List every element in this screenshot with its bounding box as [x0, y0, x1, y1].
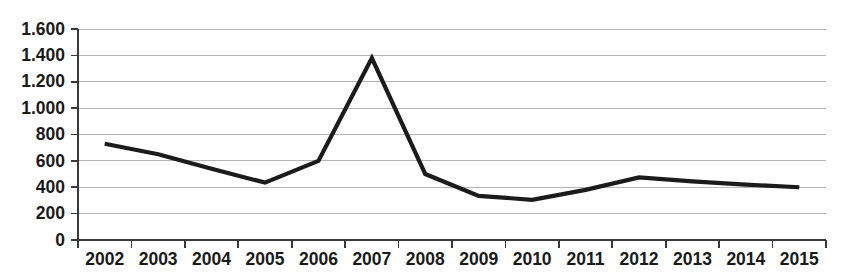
y-tick-labels-group: 02004006008001.0001.2001.4001.600	[21, 19, 65, 250]
x-axis-tick-label: 2010	[513, 249, 552, 269]
x-axis-tick-label: 2005	[246, 249, 285, 269]
y-axis-tick-label: 1.600	[21, 19, 65, 39]
x-axis-tick-label: 2011	[567, 249, 605, 269]
y-axis-tick-label: 800	[36, 124, 65, 144]
y-axis-tick-label: 1.000	[21, 98, 65, 118]
x-axis-tick-label: 2004	[192, 249, 231, 269]
y-axis-tick-label: 1.400	[21, 45, 65, 65]
y-axis-group	[71, 29, 78, 240]
x-axis-tick-label: 2003	[139, 249, 178, 269]
x-axis-tick-label: 2009	[459, 249, 498, 269]
data-series-group	[105, 58, 800, 200]
x-axis-group	[78, 240, 826, 248]
y-axis-tick-label: 200	[36, 203, 65, 223]
x-axis-tick-label: 2015	[780, 249, 819, 269]
y-axis-tick-label: 400	[36, 177, 65, 197]
x-axis-tick-label: 2006	[299, 249, 338, 269]
y-axis-tick-label: 1.200	[21, 71, 65, 91]
x-tick-labels-group: 2002200320042005200620072008200920102011…	[85, 249, 819, 269]
x-axis-tick-label: 2013	[673, 249, 712, 269]
x-axis-tick-label: 2008	[406, 249, 445, 269]
x-axis-tick-label: 2012	[620, 249, 659, 269]
x-axis-tick-label: 2002	[85, 249, 124, 269]
x-axis-tick-label: 2007	[352, 249, 391, 269]
chart-canvas: 02004006008001.0001.2001.4001.600 200220…	[0, 0, 852, 275]
y-axis-tick-label: 0	[55, 230, 65, 250]
line-chart: 02004006008001.0001.2001.4001.600 200220…	[0, 0, 852, 275]
x-axis-tick-label: 2014	[726, 249, 765, 269]
y-axis-tick-label: 600	[36, 151, 65, 171]
data-series-line	[105, 58, 800, 200]
